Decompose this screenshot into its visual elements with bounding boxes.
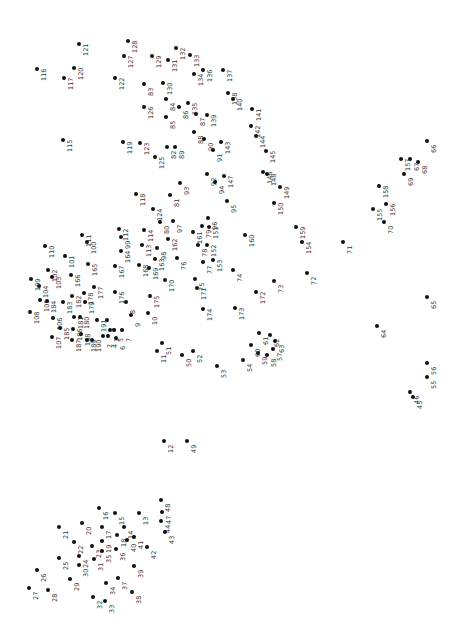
- dot-number-label: 128: [131, 41, 139, 53]
- dot-number-label: 117: [67, 78, 75, 90]
- dot-number-label: 10: [151, 317, 159, 325]
- puzzle-dot: [77, 563, 81, 567]
- dot-number-label: 7: [125, 338, 133, 342]
- dot-number-label: 27: [32, 592, 40, 600]
- puzzle-dot: [126, 39, 130, 43]
- puzzle-dot: [132, 564, 136, 568]
- puzzle-dot: [68, 577, 72, 581]
- dot-number-label: 101: [68, 256, 76, 268]
- dot-number-label: 151: [212, 227, 220, 239]
- puzzle-dot: [35, 568, 39, 572]
- dot-number-label: 153: [216, 260, 224, 272]
- puzzle-dot: [272, 201, 276, 205]
- dot-number-label: 140: [236, 99, 244, 111]
- dot-number-label: 6: [119, 346, 127, 350]
- puzzle-dot: [180, 353, 184, 357]
- puzzle-dot: [191, 349, 195, 353]
- puzzle-dot: [371, 207, 375, 211]
- puzzle-dot: [50, 275, 54, 279]
- dot-number-label: 77: [206, 266, 214, 274]
- dot-number-label: 76: [180, 262, 188, 270]
- puzzle-dot: [165, 145, 169, 149]
- puzzle-dot: [114, 336, 118, 340]
- dot-number-label: 31: [97, 563, 105, 571]
- puzzle-dot: [63, 254, 67, 258]
- puzzle-dot: [250, 107, 254, 111]
- puzzle-dot: [166, 58, 170, 62]
- puzzle-dot: [79, 332, 83, 336]
- puzzle-dot: [112, 328, 116, 332]
- puzzle-dot: [71, 327, 75, 331]
- dot-number-label: 89: [178, 151, 186, 159]
- dot-number-label: 179: [88, 302, 96, 314]
- puzzle-dot: [77, 554, 81, 558]
- puzzle-dot: [122, 54, 126, 58]
- dot-number-label: 118: [139, 194, 147, 206]
- puzzle-dot: [375, 324, 379, 328]
- puzzle-dot: [305, 271, 309, 275]
- puzzle-dot: [191, 230, 195, 234]
- dot-number-label: 150: [277, 203, 285, 215]
- puzzle-dot: [61, 138, 65, 142]
- puzzle-dot: [38, 298, 42, 302]
- puzzle-dot: [153, 155, 157, 159]
- dot-number-label: 136: [206, 70, 214, 82]
- dot-number-label: 36: [119, 553, 127, 561]
- puzzle-dot: [192, 130, 196, 134]
- puzzle-dot: [150, 54, 154, 58]
- puzzle-dot: [273, 339, 277, 343]
- puzzle-dot: [226, 91, 230, 95]
- dot-number-label: 43: [168, 536, 176, 544]
- puzzle-dot: [45, 299, 49, 303]
- puzzle-dot: [159, 498, 163, 502]
- puzzle-dot: [215, 364, 219, 368]
- puzzle-dot: [425, 361, 429, 365]
- puzzle-dot: [402, 172, 406, 176]
- puzzle-dot: [151, 207, 155, 211]
- puzzle-dot: [201, 68, 205, 72]
- dot-number-label: 78: [201, 249, 209, 257]
- dot-number-label: 165: [91, 264, 99, 276]
- puzzle-dot: [148, 294, 152, 298]
- dot-number-label: 107: [55, 337, 63, 349]
- puzzle-dot: [168, 193, 172, 197]
- dot-number-label: 74: [236, 274, 244, 282]
- dot-number-label: 38: [135, 596, 143, 604]
- dot-number-label: 122: [118, 78, 126, 90]
- dot-number-label: 29: [73, 583, 81, 591]
- puzzle-dot: [28, 310, 32, 314]
- puzzle-dot: [205, 243, 209, 247]
- puzzle-dot: [92, 285, 96, 289]
- puzzle-dot: [137, 263, 141, 267]
- dot-number-label: 58: [270, 359, 278, 367]
- dot-number-label: 37: [121, 582, 129, 590]
- puzzle-dot: [201, 260, 205, 264]
- puzzle-dot: [147, 266, 151, 270]
- puzzle-dot: [173, 145, 177, 149]
- puzzle-dot: [122, 525, 126, 529]
- puzzle-dot: [83, 300, 87, 304]
- puzzle-dot: [200, 224, 204, 228]
- puzzle-dot: [77, 42, 81, 46]
- dot-number-label: 65: [430, 301, 438, 309]
- dot-number-label: 81: [173, 199, 181, 207]
- dot-number-label: 166: [74, 275, 82, 287]
- dot-number-label: 49: [190, 445, 198, 453]
- dot-number-label: 30: [82, 569, 90, 577]
- dot-number-label: 131: [171, 60, 179, 72]
- dot-number-label: 143: [224, 142, 232, 154]
- puzzle-dot: [193, 277, 197, 281]
- puzzle-dot: [129, 313, 133, 317]
- puzzle-dot: [272, 279, 276, 283]
- puzzle-dot: [104, 581, 108, 585]
- puzzle-dot: [186, 101, 190, 105]
- puzzle-dot: [72, 66, 76, 70]
- puzzle-dot: [100, 549, 104, 553]
- dot-number-label: 129: [155, 56, 163, 68]
- dot-number-label: 41: [137, 541, 145, 549]
- puzzle-dot: [265, 172, 269, 176]
- puzzle-dot: [201, 307, 205, 311]
- dot-number-label: 48: [164, 504, 172, 512]
- puzzle-dot: [113, 264, 117, 268]
- dot-number-label: 190: [95, 340, 103, 352]
